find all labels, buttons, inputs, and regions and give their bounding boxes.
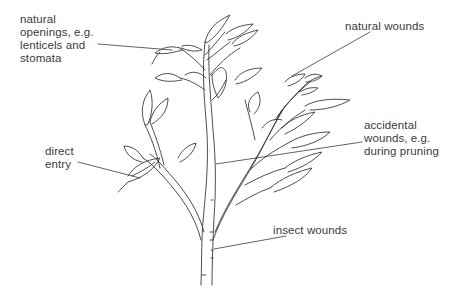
label-natural-openings: natural openings, e.g. lenticels and sto…: [20, 13, 94, 65]
leader-accidental-wounds: [216, 142, 362, 164]
leader-natural-openings: [98, 44, 172, 50]
label-line: natural: [20, 13, 94, 26]
leader-insect-wounds: [214, 236, 286, 249]
label-insect-wounds: insect wounds: [273, 224, 347, 237]
label-direct-entry: direct entry: [45, 145, 74, 171]
leader-lines: [78, 32, 370, 249]
label-line: direct: [45, 145, 74, 158]
label-line: stomata: [20, 52, 94, 65]
label-line: lenticels and: [20, 39, 94, 52]
label-line: openings, e.g.: [20, 26, 94, 39]
label-natural-wounds: natural wounds: [345, 20, 424, 33]
diagram-canvas: natural openings, e.g. lenticels and sto…: [0, 0, 471, 302]
left-branch: [143, 122, 204, 240]
label-accidental-wounds: accidental wounds, e.g. during pruning: [364, 119, 439, 158]
label-line: natural wounds: [345, 20, 424, 33]
label-line: during pruning: [364, 145, 439, 158]
label-line: insect wounds: [273, 224, 347, 237]
label-line: entry: [45, 158, 74, 171]
trunk: [201, 42, 215, 285]
right-branch: [213, 76, 322, 240]
leader-natural-wounds: [292, 32, 370, 76]
label-line: accidental: [364, 119, 439, 132]
label-line: wounds, e.g.: [364, 132, 439, 145]
leader-direct-entry: [78, 162, 140, 178]
